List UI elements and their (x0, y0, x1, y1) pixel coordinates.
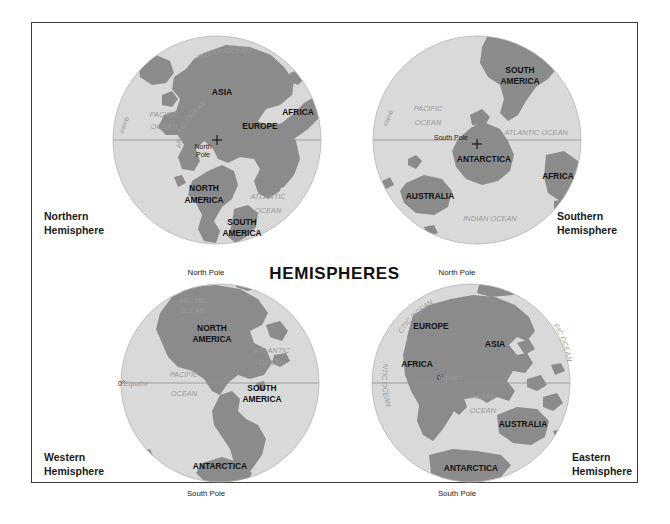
pole-label-north-l1: North (194, 143, 211, 150)
continent-label-south-america-l1: SOUTH (247, 383, 276, 393)
continent-label-north-america-l2: AMERICA (192, 334, 231, 344)
caption-northern-line1: Northern (44, 210, 104, 224)
ocean-label-pacific-l1: PACIFIC (170, 370, 199, 379)
caption-southern-line2: Hemisphere (557, 224, 617, 238)
globe-western-hemisphere[interactable]: ARCTIC OCEAN ATLANTIC OCEAN PACIFIC OCEA… (116, 279, 324, 487)
ocean-label-pacific-l2: OCEAN (415, 118, 442, 127)
ocean-label-indian: INDIAN OCEAN (463, 214, 517, 223)
pole-label-south: South Pole (434, 134, 468, 141)
equator-label-eastern: Equator (439, 374, 464, 382)
continent-label-north-america-l2: AMERICA (184, 195, 223, 205)
globe-eastern-hemisphere[interactable]: ARCTIC OCEAN PACIFIC OCEAN ATLANTIC OCEA… (367, 279, 575, 487)
poster-sheet: INDIAN OCEAN 0°-Equator ARCTIC OCEAN PAC… (0, 0, 670, 524)
pole-label-north-western: North Pole (158, 268, 254, 277)
pole-label-south-western: South Pole (158, 489, 254, 498)
continent-label-south-america-l2: AMERICA (242, 394, 281, 404)
poster-frame: INDIAN OCEAN 0°-Equator ARCTIC OCEAN PAC… (31, 22, 638, 483)
ocean-label-pacific-l1: PACIFIC (414, 104, 443, 113)
continent-label-south-america-l2: AMERICA (500, 76, 539, 86)
continent-label-australia: AUSTRALIA (499, 419, 547, 429)
continent-label-europe: EUROPE (242, 121, 278, 131)
caption-northern-line2: Hemisphere (44, 224, 104, 238)
ocean-label-atlantic-l1: ATLANTIC (253, 346, 290, 355)
continent-label-antarctica: ANTARCTICA (444, 463, 498, 473)
caption-western-hemisphere: Western Hemisphere (44, 451, 104, 478)
continent-label-antarctica: ANTARCTICA (457, 154, 511, 164)
pole-label-north-eastern: North Pole (409, 268, 505, 277)
ocean-label-atlantic: ATLANTIC OCEAN (503, 128, 568, 137)
caption-eastern-hemisphere: Eastern Hemisphere (572, 451, 632, 478)
ocean-label-arctic-l2: OCEAN (179, 306, 205, 315)
ocean-label-indian-l1: INDIAN (470, 392, 496, 401)
continent-label-africa: AFRICA (401, 359, 433, 369)
ocean-label-arctic-l1: ARCTIC (178, 296, 207, 305)
pole-label-south-eastern: South Pole (409, 489, 505, 498)
continent-label-asia: ASIA (212, 87, 233, 97)
continent-label-south-america-l1: SOUTH (505, 65, 534, 75)
globe-southern-hemisphere[interactable]: 0°-Equator PACIFIC OCEAN ATLANTIC OCEAN … (368, 31, 586, 249)
ocean-label-atlantic-l1: ATLANTIC (249, 192, 286, 201)
continent-label-australia: AUSTRALIA (406, 191, 454, 201)
caption-northern-hemisphere: Northern Hemisphere (44, 210, 104, 237)
caption-southern-hemisphere: Southern Hemisphere (557, 210, 617, 237)
equator-label-western: Equator (124, 380, 149, 388)
continent-label-north-america-l1: NORTH (189, 183, 219, 193)
continent-label-south-america-l1: SOUTH (227, 217, 256, 227)
continent-label-africa: AFRICA (282, 107, 314, 117)
continent-label-antarctica: ANTARCTICA (193, 461, 247, 471)
continent-label-asia: ASIA (485, 339, 506, 349)
ocean-label-pacific-l2: OCEAN (171, 389, 198, 398)
continent-label-south-america-l2: AMERICA (222, 228, 261, 238)
ocean-label-pacific-l1: PACIFIC (150, 110, 179, 119)
globe-northern-hemisphere[interactable]: INDIAN OCEAN 0°-Equator ARCTIC OCEAN PAC… (108, 31, 326, 249)
caption-eastern-line2: Hemisphere (572, 465, 632, 479)
caption-western-line2: Hemisphere (44, 465, 104, 479)
continent-label-europe: EUROPE (413, 321, 449, 331)
continent-label-africa: AFRICA (542, 171, 574, 181)
ocean-label-atlantic-l2: OCEAN (259, 358, 286, 367)
pole-label-north-l2: Pole (196, 151, 210, 158)
continent-label-north-america-l1: NORTH (197, 323, 227, 333)
caption-southern-line1: Southern (557, 210, 617, 224)
ocean-label-indian-l2: OCEAN (470, 406, 497, 415)
ocean-label-pacific-l2: OCEAN (151, 122, 178, 131)
caption-western-line1: Western (44, 451, 104, 465)
caption-eastern-line1: Eastern (572, 451, 632, 465)
ocean-label-atlantic-l2: OCEAN (255, 206, 282, 215)
